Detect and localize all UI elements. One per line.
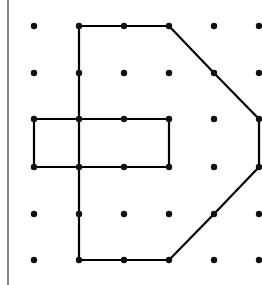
grid-dot bbox=[76, 211, 82, 217]
grid-dot bbox=[166, 23, 172, 29]
grid-dot bbox=[211, 70, 217, 76]
grid-dot bbox=[31, 211, 37, 217]
grid-dot bbox=[76, 257, 82, 263]
grid-dot bbox=[211, 257, 217, 263]
grid-dot bbox=[256, 257, 262, 263]
grid-dot bbox=[76, 164, 82, 170]
grid-dot bbox=[121, 164, 127, 170]
grid-dot bbox=[211, 23, 217, 29]
grid-dot bbox=[121, 257, 127, 263]
grid-dot bbox=[166, 70, 172, 76]
grid-dot bbox=[31, 23, 37, 29]
grid-dot bbox=[121, 70, 127, 76]
grid-dot bbox=[256, 211, 262, 217]
grid-dot bbox=[211, 211, 217, 217]
grid-dot bbox=[121, 23, 127, 29]
grid-dot bbox=[31, 116, 37, 122]
grid-dot bbox=[166, 116, 172, 122]
grid-dot bbox=[256, 116, 262, 122]
grid-dot bbox=[256, 70, 262, 76]
grid-dot bbox=[256, 23, 262, 29]
rectangle bbox=[34, 119, 169, 167]
grid-dot bbox=[211, 164, 217, 170]
grid-dot bbox=[31, 164, 37, 170]
grid-dot bbox=[121, 116, 127, 122]
grid-dot bbox=[166, 257, 172, 263]
grid-dot bbox=[256, 164, 262, 170]
grid-dot bbox=[76, 70, 82, 76]
geoboard-diagram bbox=[0, 0, 262, 285]
grid-dot bbox=[76, 23, 82, 29]
grid-dot bbox=[31, 257, 37, 263]
grid-dot bbox=[76, 116, 82, 122]
grid-dot bbox=[166, 164, 172, 170]
shapes-layer bbox=[34, 26, 259, 260]
grid-dot bbox=[211, 116, 217, 122]
dots-layer bbox=[31, 23, 262, 263]
grid-dot bbox=[121, 211, 127, 217]
grid-dot bbox=[166, 211, 172, 217]
grid-dot bbox=[31, 70, 37, 76]
